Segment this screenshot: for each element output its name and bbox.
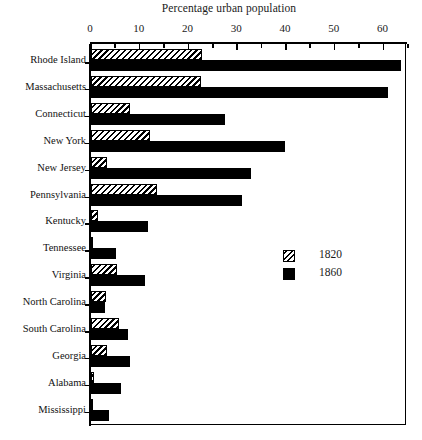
bar-1820-georgia	[91, 345, 107, 356]
category-label-new-york: New York	[0, 135, 86, 146]
chart-legend: 18201860	[283, 248, 393, 284]
chart-row: Pennsylvania	[0, 184, 422, 211]
category-label-georgia: Georgia	[0, 350, 86, 361]
category-label-alabama: Alabama	[0, 377, 86, 388]
bar-1860-new-jersey	[91, 168, 251, 179]
category-label-mississippi: Mississippi	[0, 404, 86, 415]
bar-1820-connecticut	[91, 103, 130, 114]
x-tick-label-20: 20	[182, 22, 193, 34]
chart-row: North Carolina	[0, 291, 422, 318]
bar-1820-rhode-island	[91, 49, 202, 60]
bar-1860-north-carolina	[91, 302, 105, 313]
x-tick-label-40: 40	[280, 22, 291, 34]
y-tick-7	[85, 250, 90, 252]
bar-1860-new-york	[91, 141, 285, 152]
chart-row: Kentucky	[0, 210, 422, 237]
urban-population-bar-chart: Percentage urban population 010203040506…	[0, 0, 422, 440]
category-label-south-carolina: South Carolina	[0, 323, 86, 334]
chart-row: New Jersey	[0, 157, 422, 184]
bar-1860-kentucky	[91, 221, 148, 232]
chart-row: Mississippi	[0, 399, 422, 426]
bar-1860-connecticut	[91, 114, 225, 125]
category-label-connecticut: Connecticut	[0, 108, 86, 119]
y-tick-9	[85, 304, 90, 306]
category-label-north-carolina: North Carolina	[0, 296, 86, 307]
x-tick-label-60: 60	[377, 22, 388, 34]
x-tick-minor-65	[407, 44, 409, 48]
legend-row-1820: 1820	[283, 248, 393, 266]
legend-swatch-solid	[283, 268, 295, 280]
chart-row: Georgia	[0, 345, 422, 372]
bar-1860-georgia	[91, 356, 130, 367]
y-tick-13	[85, 412, 90, 414]
category-label-pennsylvania: Pennsylvania	[0, 189, 86, 200]
y-tick-5	[85, 197, 90, 199]
y-tick-8	[85, 277, 90, 279]
bar-1820-new-jersey	[91, 157, 107, 168]
y-tick-6	[85, 223, 90, 225]
bar-1820-new-york	[91, 130, 150, 141]
x-tick-label-10: 10	[133, 22, 144, 34]
category-label-massachusetts: Massachusetts	[0, 81, 86, 92]
bar-1820-pennsylvania	[91, 184, 157, 195]
y-tick-0	[85, 62, 90, 64]
chart-row: Connecticut	[0, 103, 422, 130]
category-label-new-jersey: New Jersey	[0, 162, 86, 173]
y-tick-11	[85, 358, 90, 360]
category-label-virginia: Virginia	[0, 269, 86, 280]
y-tick-10	[85, 331, 90, 333]
bar-1820-north-carolina	[91, 291, 106, 302]
y-tick-3	[85, 143, 90, 145]
bar-1820-virginia	[91, 264, 117, 275]
legend-label-1860: 1860	[319, 266, 342, 278]
x-tick-label-50: 50	[328, 22, 339, 34]
chart-row: South Carolina	[0, 318, 422, 345]
bar-1860-tennessee	[91, 248, 116, 259]
bar-1820-south-carolina	[91, 318, 119, 329]
category-label-kentucky: Kentucky	[0, 215, 86, 226]
chart-row: New York	[0, 130, 422, 157]
bar-1860-virginia	[91, 275, 145, 286]
y-tick-12	[85, 385, 90, 387]
legend-label-1820: 1820	[319, 248, 342, 260]
bar-1820-alabama	[91, 372, 94, 383]
chart-title: Percentage urban population	[0, 2, 422, 14]
bar-1820-massachusetts	[91, 76, 201, 87]
x-tick-label-0: 0	[87, 22, 93, 34]
bar-1860-alabama	[91, 383, 121, 394]
x-axis-tick-labels: 0102030405060	[0, 22, 422, 38]
bar-1860-mississippi	[91, 410, 109, 421]
category-label-rhode-island: Rhode Island	[0, 54, 86, 65]
category-label-tennessee: Tennessee	[0, 242, 86, 253]
y-tick-4	[85, 170, 90, 172]
bar-1860-pennsylvania	[91, 195, 242, 206]
chart-row: Rhode Island	[0, 49, 422, 76]
bar-1820-tennessee	[91, 237, 93, 248]
chart-row: Massachusetts	[0, 76, 422, 103]
legend-row-1860: 1860	[283, 266, 393, 284]
chart-row: Alabama	[0, 372, 422, 399]
y-tick-1	[85, 89, 90, 91]
bar-1860-rhode-island	[91, 60, 401, 71]
bar-1820-mississippi	[91, 399, 93, 410]
bar-1820-kentucky	[91, 210, 98, 221]
y-tick-2	[85, 116, 90, 118]
bar-1860-south-carolina	[91, 329, 128, 340]
legend-swatch-hatched	[283, 250, 295, 262]
bar-1860-massachusetts	[91, 87, 388, 98]
x-tick-label-30: 30	[231, 22, 242, 34]
